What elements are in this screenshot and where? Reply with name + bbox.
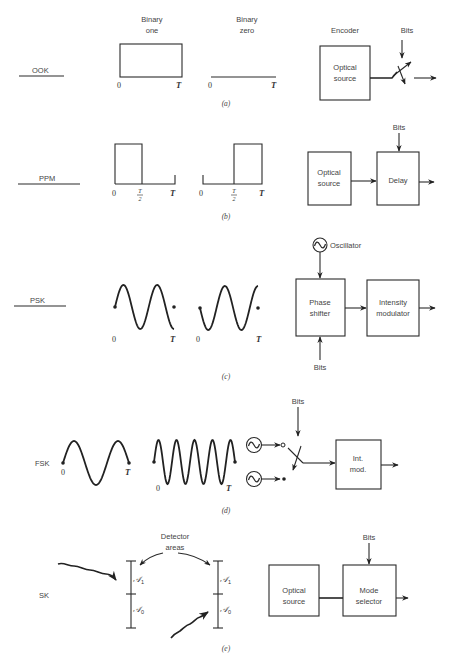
psk-waveform-one — [115, 285, 174, 329]
waveform-start-dot — [113, 305, 117, 309]
axis-zero: 0 — [112, 189, 116, 198]
bits-label: Bits — [401, 26, 414, 35]
axis-zero: 0 — [156, 484, 160, 493]
detector-pointer-left — [140, 553, 163, 565]
caption-b: (b) — [222, 212, 231, 221]
optical-source-label-line2: source — [318, 179, 341, 188]
encoder-label: Encoder — [331, 26, 359, 35]
ppm-one-pulse — [115, 144, 175, 184]
scheme-label-fsk: FSK — [35, 459, 50, 468]
optical-source-label-line2: source — [334, 74, 357, 83]
binary-zero-heading-line1: Binary — [236, 15, 258, 24]
bits-label: Bits — [314, 363, 327, 372]
axis-t: T — [170, 334, 176, 344]
axis-t: T — [259, 188, 265, 198]
axis-t: T — [271, 80, 277, 90]
axis-t: T — [256, 334, 262, 344]
detector-areas-label-line1: Detector — [161, 532, 190, 541]
optical-source-label-line1: Optical — [317, 168, 341, 177]
panel-c-psk: PSK 0 T 0 T (c) Oscillator Phase shifter… — [14, 238, 435, 381]
axis-zero: 0 — [117, 81, 121, 90]
caption-d: (d) — [222, 506, 231, 515]
waveform-end-dot — [127, 461, 131, 465]
switch-icon — [288, 446, 303, 470]
psk-waveform-zero — [200, 286, 258, 330]
ppm-zero-pulse — [203, 144, 262, 184]
panel-d-fsk: FSK 0 T 0 T (d) Bits Int. — [35, 397, 398, 515]
int-mod-label-line1: Int. — [353, 454, 363, 463]
axis-half-den: 2 — [233, 196, 236, 202]
area-0-subscript: 0 — [141, 609, 144, 615]
waveform-start-dot — [152, 460, 156, 464]
axis-zero: 0 — [196, 335, 200, 344]
mode-selector-label-line2: selector — [356, 597, 383, 606]
axis-t: T — [176, 80, 182, 90]
caption-e: (e) — [222, 644, 231, 653]
area-1-subscript: 1 — [228, 579, 231, 585]
modulation-schemes-figure: OOK Binary one 0 T Binary zero 0 T (a) E… — [0, 0, 452, 655]
ook-one-pulse — [120, 44, 182, 77]
axis-half-den: 2 — [139, 196, 142, 202]
fsk-waveform-one — [63, 441, 129, 485]
int-mod-label-line2: mod. — [350, 465, 367, 474]
fsk-waveform-zero — [154, 440, 235, 484]
oscillator-icon — [247, 438, 262, 453]
caption-a: (a) — [222, 99, 231, 108]
caption-c: (c) — [222, 372, 231, 381]
detector-pointer-right — [178, 553, 210, 565]
oscillator-icon — [247, 472, 262, 487]
axis-t: T — [125, 467, 131, 477]
scheme-label-ook: OOK — [32, 66, 49, 75]
incoming-beam-0 — [171, 612, 208, 638]
phase-shifter-box — [296, 279, 345, 336]
bits-label: Bits — [292, 397, 305, 406]
axis-t: T — [226, 483, 232, 493]
optical-source-label-line2: source — [283, 597, 306, 606]
switch-contact-closed — [282, 477, 286, 481]
phase-shifter-label-line2: shifter — [310, 309, 331, 318]
binary-one-heading-line1: Binary — [141, 15, 163, 24]
axis-zero: 0 — [199, 189, 203, 198]
optical-source-label-line1: Optical — [282, 586, 306, 595]
panel-b-ppm: PPM 0 T 2 T 0 T 2 T (b) Optical source D… — [18, 123, 434, 221]
detector-areas-label-line2: areas — [166, 543, 185, 552]
optical-source-label-line1: Optical — [333, 63, 357, 72]
incoming-beam-1 — [58, 563, 116, 580]
axis-zero: 0 — [208, 81, 212, 90]
axis-zero: 0 — [112, 335, 116, 344]
intensity-modulator-box — [367, 280, 419, 336]
panel-e-sk: SK Detector areas 𝒜 1 𝒜 0 𝒜 1 𝒜 0 (e — [39, 532, 408, 653]
detector-left — [126, 561, 136, 628]
axis-t: T — [170, 188, 176, 198]
bits-label: Bits — [393, 123, 406, 132]
area-1-subscript: 1 — [141, 579, 144, 585]
waveform-start-dot — [198, 306, 202, 310]
intensity-modulator-label-line1: Intensity — [379, 298, 407, 307]
bits-label: Bits — [363, 533, 376, 542]
intensity-modulator-label-line2: modulator — [376, 309, 410, 318]
binary-one-heading-line2: one — [146, 26, 159, 35]
optical-source-box — [320, 46, 370, 100]
axis-half-num: T — [232, 188, 236, 194]
delay-label: Delay — [388, 176, 407, 185]
mode-selector-label-line1: Mode — [360, 586, 379, 595]
binary-zero-heading-line2: zero — [240, 26, 255, 35]
waveform-end-dot — [172, 305, 176, 309]
panel-a-ook: OOK Binary one 0 T Binary zero 0 T (a) E… — [19, 15, 436, 108]
scheme-label-sk: SK — [39, 591, 49, 600]
scheme-label-psk: PSK — [30, 296, 45, 305]
detector-right — [213, 561, 223, 628]
switch-contact-open — [281, 443, 285, 447]
oscillator-icon — [313, 238, 327, 252]
area-0-subscript: 0 — [228, 609, 231, 615]
axis-half-num: T — [138, 188, 142, 194]
scheme-label-ppm: PPM — [39, 174, 55, 183]
waveform-start-dot — [61, 461, 65, 465]
output-wire — [370, 72, 397, 78]
axis-zero: 0 — [61, 468, 65, 477]
waveform-end-dot — [233, 460, 237, 464]
phase-shifter-label-line1: Phase — [309, 298, 330, 307]
oscillator-label: Oscillator — [330, 241, 362, 250]
waveform-end-dot — [256, 306, 260, 310]
